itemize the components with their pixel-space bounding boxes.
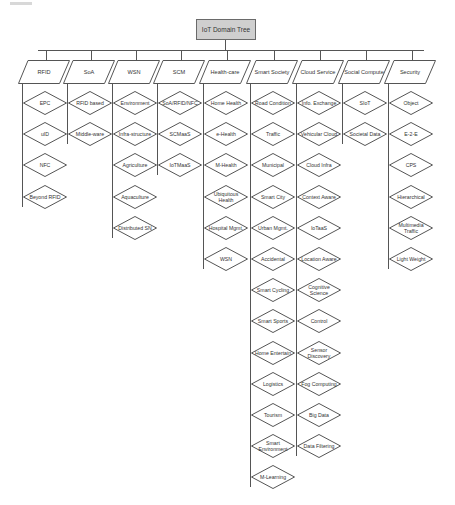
leaf-label: Location Aware [300,247,338,271]
leaf-label: Light Weight [392,247,430,271]
leaf-node-wsn: WSN [204,247,248,271]
leaf-label: Control [300,309,338,333]
leaf-label: Tourism [254,403,292,427]
leaf-node-m-health: M-Health [204,153,248,177]
leaf-node-beyond-rfid: Beyond RFID [23,185,67,209]
leaf-label: Info. Exchange [300,91,338,115]
leaf-node-hierarchical: Hierarchical [389,185,433,209]
leaf-node-soa-rfid-nfc: SoA/RFID/NFC [158,91,202,115]
leaf-label: Data Filtering [300,434,338,458]
leaf-node-scmaas: SCMaaS [158,122,202,146]
leaf-node-data-filtering: Data Filtering [297,434,341,458]
leaf-label: Hospital Mgmt. [207,216,245,240]
category-connector [181,50,182,60]
leaf-label: Infra-structure [116,122,154,146]
leaf-label: NFC [26,153,64,177]
leaf-node-multimedia-traffic: Multimedia Traffic [389,216,433,240]
leaf-label: Context Aware [300,185,338,209]
leaf-node-home-entertain: Home Entertain [251,341,295,365]
leaf-node-smart-cycling: Smart Cycling [251,278,295,302]
leaf-label: Multimedia Traffic [392,216,430,240]
category-label: Smart Society [252,60,292,84]
leaf-node-agriculture: Agriculture [113,153,157,177]
leaf-label: Ubiquitous Health [207,185,245,209]
leaf-label: IoTaaS [300,216,338,240]
leaf-label: Logistics [254,372,292,396]
root-label: IoT Domain Tree [202,26,250,33]
category-connector [274,50,275,60]
leaf-label: Smart Sports [254,309,292,333]
category-node-cloud-service: Cloud Service [292,60,344,84]
leaf-label: Aquaculture [116,185,154,209]
category-node-security: Security [384,60,436,84]
leaf-node-nfc: NFC [23,153,67,177]
leaf-label: e-Health [207,122,245,146]
leaf-label: Road Condition [254,91,292,115]
leaf-node-cps: CPS [389,153,433,177]
leaf-node-control: Control [297,309,341,333]
category-label: SCM [159,60,199,84]
leaf-label: SCMaaS [161,122,199,146]
leaf-node-traffic: Traffic [251,122,295,146]
leaf-node-infra-structure: Infra-structure [113,122,157,146]
leaf-node-tourism: Tourism [251,403,295,427]
category-label: RFID [24,60,64,84]
category-node-health-care: Health-care [199,60,251,84]
leaf-node-societal-data: Societal Data [343,122,387,146]
leaf-label: Distributed SN [116,216,154,240]
leaf-node-accidental: Accidental [251,247,295,271]
leaf-label: Environment [116,91,154,115]
leaf-label: Accidental [254,247,292,271]
leaf-label: E-2-E [392,122,430,146]
leaf-node-hospital-mgmt: Hospital Mgmt. [204,216,248,240]
leaf-label: Cognitive Science [300,278,338,302]
leaf-node-context-aware: Context Aware [297,185,341,209]
leaf-label: CPS [392,153,430,177]
leaf-label: Object [392,91,430,115]
leaf-node-distributed-sn: Distributed SN [113,216,157,240]
category-label: WSN [114,60,154,84]
leaf-node-e-health: e-Health [204,122,248,146]
leaf-node-epc: EPC [23,91,67,115]
leaf-label: EPC [26,91,64,115]
leaf-node-light-weight: Light Weight [389,247,433,271]
leaf-node-location-aware: Location Aware [297,247,341,271]
leaf-node-object: Object [389,91,433,115]
leaf-node-info-exchange: Info. Exchange [297,91,341,115]
leaf-label: Smart City [254,185,292,209]
category-label: Security [390,60,430,84]
leaf-node-road-condition: Road Condition [251,91,295,115]
leaf-node-iotaas: IoTaaS [297,216,341,240]
leaf-label: Hierarchical [392,185,430,209]
leaf-label: RFID based [71,91,109,115]
leaf-node-smart-environment: Smart Environment [251,434,295,458]
category-connector [227,50,228,60]
leaf-label: Sensor Discovery [300,341,338,365]
leaf-label: Societal Data [346,122,384,146]
leaf-node-cognitive-science: Cognitive Science [297,278,341,302]
leaf-node-e-2-e: E-2-E [389,122,433,146]
leaf-node-cloud-infra: Cloud Infra [297,153,341,177]
category-label: Health-care [205,60,245,84]
leaf-node-aquaculture: Aquaculture [113,185,157,209]
category-node-smart-society: Smart Society [246,60,298,84]
leaf-label: Beyond RFID [26,185,64,209]
leaf-node-fog-computing: Fog Computing [297,372,341,396]
leaf-label: Fog Computing [300,372,338,396]
leaf-node-municipal: Municipal [251,153,295,177]
leaf-node-middle-ware: Middle-ware [68,122,112,146]
category-connector [91,50,92,60]
leaf-node-ubiquitous-health: Ubiquitous Health [204,185,248,209]
leaf-label: WSN [207,247,245,271]
leaf-node-environment: Environment [113,91,157,115]
leaf-label: Urban Mgmt. [254,216,292,240]
leaf-label: Smart Cycling [254,278,292,302]
category-connector [366,50,367,60]
leaf-label: Agriculture [116,153,154,177]
page-corner-mark [10,2,32,5]
leaf-node-rfid-based: RFID based [68,91,112,115]
leaf-node-smart-sports: Smart Sports [251,309,295,333]
root-connector [225,40,226,50]
leaf-node-m-learning: M-Learning [251,465,295,489]
leaf-label: Smart Environment [254,434,292,458]
